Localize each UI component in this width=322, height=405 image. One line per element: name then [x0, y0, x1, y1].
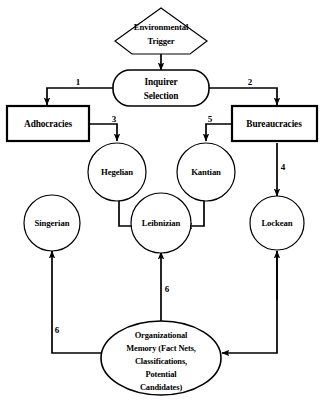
- singerian-label: Singerian: [35, 218, 70, 228]
- kantian-label: Kantian: [191, 167, 221, 177]
- edge-label-3: 3: [112, 114, 117, 124]
- hegelian-label: Hegelian: [101, 167, 133, 177]
- node-bureaucracies[interactable]: Bureaucracies: [232, 106, 317, 141]
- edge-inquirer-to-adhocracies: [47, 88, 113, 105]
- edge-bureaucracies-to-kantian: [206, 124, 232, 141]
- inquirer-selection-label-line1: Inquirer: [144, 77, 177, 87]
- edge-memory-to-singerian: [52, 251, 101, 353]
- organizational-memory-line5: Candidates): [140, 383, 182, 392]
- edge-label-4: 4: [281, 162, 286, 172]
- organizational-memory-line3: Classifications,: [135, 357, 187, 366]
- edge-label-5: 5: [208, 114, 213, 124]
- node-adhocracies[interactable]: Adhocracies: [7, 106, 89, 141]
- bureaucracies-label: Bureaucracies: [246, 119, 302, 129]
- node-lockean[interactable]: Lockean: [250, 196, 304, 250]
- edge-inquirer-to-bureaucracies: [209, 88, 277, 105]
- edge-label-1: 1: [76, 77, 81, 87]
- organizational-memory-line4: Potential: [145, 370, 177, 379]
- organizational-memory-line2: Memory (Fact Nets,: [126, 344, 196, 353]
- node-kantian[interactable]: Kantian: [177, 143, 235, 201]
- node-hegelian[interactable]: Hegelian: [88, 143, 146, 201]
- edge-lockean-to-memory: [222, 251, 277, 353]
- lockean-label: Lockean: [261, 218, 292, 228]
- environmental-trigger-label-line1: Environmental: [134, 22, 189, 32]
- edge-label-6-leibnizian: 6: [165, 284, 170, 294]
- inquirer-selection-label-line2: Selection: [144, 91, 180, 101]
- edge-adhocracies-to-hegelian: [89, 124, 117, 141]
- node-organizational-memory[interactable]: Organizational Memory (Fact Nets, Classi…: [101, 321, 221, 395]
- leibnizian-label: Leibnizian: [142, 218, 181, 228]
- edge-label-2: 2: [248, 77, 253, 87]
- node-leibnizian[interactable]: Leibnizian: [131, 193, 191, 253]
- node-singerian[interactable]: Singerian: [24, 195, 80, 251]
- edge-label-6-singerian: 6: [55, 325, 60, 335]
- node-inquirer-selection[interactable]: Inquirer Selection: [113, 70, 209, 106]
- adhocracies-label: Adhocracies: [24, 119, 72, 129]
- node-environmental-trigger[interactable]: Environmental Trigger: [115, 8, 207, 54]
- organizational-memory-line1: Organizational: [135, 331, 188, 340]
- diagram-canvas: Environmental Trigger Inquirer Selection…: [0, 0, 322, 405]
- flow-diagram: Environmental Trigger Inquirer Selection…: [0, 0, 322, 405]
- environmental-trigger-label-line2: Trigger: [147, 36, 174, 46]
